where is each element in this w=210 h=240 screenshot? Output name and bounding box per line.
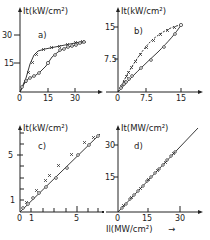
panel-a-ytick: 30 <box>2 31 12 40</box>
panel-c-xtick: 5 <box>74 214 79 223</box>
panel-c-ylabel: It(kW/cm²) <box>23 123 68 133</box>
arrow-up-icon <box>18 125 22 130</box>
axis-end-dot <box>102 211 104 213</box>
panel-b-xtick: 7.5 <box>140 94 153 103</box>
arrow-right-icon <box>198 210 203 214</box>
panel-a-xtick: 15 <box>43 94 53 103</box>
arrow-right-icon <box>198 90 203 94</box>
arrow-right-icon <box>98 90 103 94</box>
arrow-up-icon <box>18 7 22 12</box>
panel-b-ytick: 15 <box>105 23 115 32</box>
panel-a-xtick: 0 <box>17 94 22 103</box>
panel-b-label: b) <box>134 26 143 36</box>
panel-c-ytick: 1 <box>10 196 15 205</box>
x-axis-label: Il(MW/cm²) <box>106 224 152 234</box>
panel-d-ytick: 30 <box>105 141 115 150</box>
panel-c-label: c) <box>38 141 46 151</box>
panel-b <box>106 7 203 94</box>
arrow-up-icon <box>116 7 120 12</box>
panel-c <box>17 125 104 213</box>
panel-c-xtick: 1 <box>29 214 34 223</box>
panel-c-ytick: 5 <box>8 151 13 160</box>
x-axis-label-arrow: → <box>168 224 175 234</box>
panel-a-ylabel: It(kW/cm²) <box>23 6 68 16</box>
panel-c-xtick: 0 <box>17 214 22 223</box>
panel-d-label: d) <box>134 141 143 151</box>
panel-c-cross-markers <box>25 136 95 204</box>
panel-b-xtick: 0 <box>115 94 120 103</box>
panel-a-label: a) <box>38 30 47 40</box>
panel-a <box>14 7 103 94</box>
panel-b-ytick: 7.5 <box>104 55 117 64</box>
panel-d-xtick: 0 <box>115 214 120 223</box>
panel-d-ylabel: It(MW/cm²) <box>121 123 168 133</box>
panel-a-xtick: 30 <box>70 94 80 103</box>
figure-canvas: It(kW/cm²) 30 15 a) 0 15 30 It(kW/cm²) 1… <box>0 0 210 240</box>
panel-b-ylabel: It(kW/cm²) <box>121 6 166 16</box>
panel-d-ytick: 15 <box>105 173 115 182</box>
panel-d-xtick: 15 <box>142 214 152 223</box>
arrow-up-icon <box>116 125 120 130</box>
panel-b-circle-markers <box>120 23 183 89</box>
panel-a-ytick: 15 <box>4 59 14 68</box>
panel-d-xtick: 30 <box>175 214 185 223</box>
panel-b-xtick: 15 <box>176 94 186 103</box>
panel-d <box>106 125 203 214</box>
